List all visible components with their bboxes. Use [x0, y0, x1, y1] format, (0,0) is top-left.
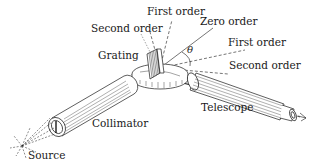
label-second-order-left: Second order [91, 23, 163, 34]
telescope [185, 71, 306, 121]
label-first-order-right: First order [228, 37, 286, 48]
label-zero-order: Zero order [200, 16, 257, 27]
label-theta: θ [187, 45, 193, 55]
spectrometer-diagram: First order Second order Zero order Firs… [0, 0, 310, 166]
label-first-order-left: First order [147, 6, 205, 17]
label-source: Source [28, 150, 65, 161]
collimator [45, 75, 138, 139]
label-second-order-right: Second order [229, 60, 301, 71]
label-grating: Grating [98, 50, 139, 61]
label-collimator: Collimator [92, 118, 148, 129]
label-telescope: Telescope [201, 102, 254, 113]
